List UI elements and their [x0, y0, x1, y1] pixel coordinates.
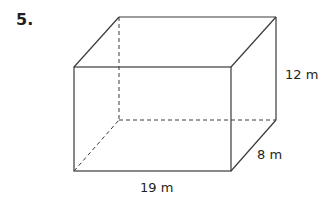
rectangular-prism-figure: 12 m 8 m 19 m	[0, 0, 336, 201]
hidden-edge-bottom-left-depth	[74, 120, 119, 171]
height-label: 12 m	[285, 67, 318, 82]
front-face	[74, 67, 231, 171]
edge-bottom-right-depth	[231, 120, 276, 171]
length-label: 19 m	[140, 180, 173, 195]
edge-top-left-depth	[74, 17, 119, 67]
edge-top-right-depth	[231, 17, 276, 67]
width-label: 8 m	[257, 147, 282, 162]
